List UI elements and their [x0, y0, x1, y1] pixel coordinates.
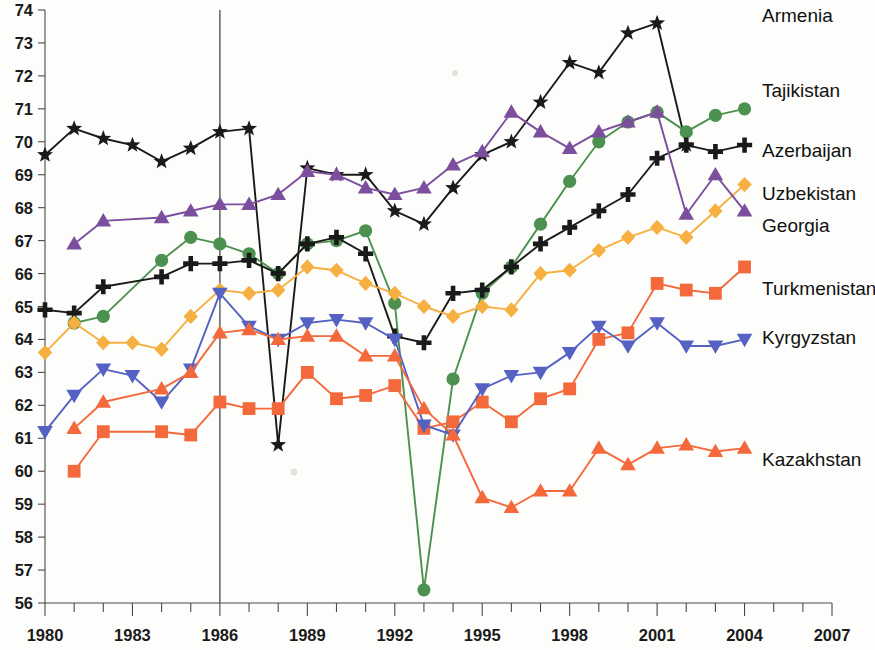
- data-point-marker: [446, 309, 460, 324]
- data-point-marker: [504, 104, 520, 117]
- y-axis-tick-label: 73: [15, 34, 33, 52]
- data-point-marker: [213, 237, 226, 250]
- data-point-marker: [96, 335, 110, 350]
- data-point-marker: [417, 583, 430, 596]
- data-point-marker: [329, 328, 345, 341]
- data-point-marker: [678, 437, 694, 450]
- data-point-marker: [155, 254, 168, 267]
- x-axis-tick-label: 2004: [726, 626, 764, 644]
- data-point-marker: [212, 256, 227, 271]
- series-label-azerbaijan: Azerbaijan: [762, 140, 852, 161]
- data-point-marker: [95, 130, 111, 145]
- data-point-marker: [183, 140, 199, 155]
- data-point-marker: [330, 392, 343, 405]
- data-point-marker: [97, 310, 110, 323]
- data-point-marker: [154, 396, 170, 409]
- data-point-marker: [708, 144, 723, 159]
- data-point-marker: [416, 335, 431, 350]
- data-point-marker: [388, 286, 402, 301]
- series-label-georgia: Georgia: [762, 215, 830, 236]
- x-axis-tick-label: 2007: [814, 626, 851, 644]
- data-point-marker: [387, 334, 403, 347]
- series-kazakhstan: [66, 322, 752, 513]
- y-axis-tick-label: 60: [15, 462, 33, 480]
- data-point-marker: [592, 333, 605, 346]
- data-point-marker: [620, 457, 636, 470]
- data-point-marker: [475, 299, 489, 314]
- x-axis-tick-label: 2001: [639, 626, 676, 644]
- data-point-marker: [504, 370, 520, 383]
- series-line: [74, 112, 744, 244]
- data-point-marker: [358, 348, 374, 361]
- data-point-marker: [679, 137, 694, 152]
- data-point-marker: [533, 483, 549, 496]
- x-axis-tick-label: 1980: [27, 626, 64, 644]
- data-point-marker: [301, 366, 314, 379]
- data-point-marker: [359, 224, 372, 237]
- data-point-marker: [358, 246, 373, 261]
- data-point-marker: [68, 465, 81, 478]
- x-axis-tick-label: 1983: [114, 626, 151, 644]
- data-point-marker: [678, 340, 694, 353]
- data-point-marker: [534, 218, 547, 231]
- data-point-marker: [709, 287, 722, 300]
- data-point-marker: [37, 302, 52, 317]
- data-point-marker: [37, 426, 53, 439]
- data-point-marker: [562, 141, 578, 154]
- series-azerbaijan: [37, 137, 752, 350]
- data-point-marker: [270, 187, 286, 200]
- data-point-marker: [678, 206, 694, 219]
- data-point-marker: [358, 166, 374, 181]
- data-point-marker: [505, 415, 518, 428]
- data-point-marker: [445, 286, 460, 301]
- axis-ticks-group: [38, 10, 832, 616]
- data-point-marker: [737, 440, 753, 453]
- data-point-marker: [155, 425, 168, 438]
- data-point-marker: [154, 269, 169, 284]
- data-point-marker: [154, 153, 170, 168]
- data-point-marker: [592, 243, 606, 258]
- data-point-marker: [562, 263, 576, 278]
- data-point-marker: [124, 137, 140, 152]
- x-axis-tick-label: 1995: [464, 626, 501, 644]
- data-point-marker: [446, 372, 459, 385]
- data-point-marker: [563, 382, 576, 395]
- data-point-marker: [359, 389, 372, 402]
- data-point-marker: [533, 124, 549, 137]
- y-axis-tick-label: 71: [15, 100, 33, 118]
- y-axis-tick-label: 65: [15, 298, 33, 316]
- data-point-marker: [445, 157, 461, 170]
- data-point-marker: [738, 102, 751, 115]
- data-point-marker: [183, 256, 198, 271]
- data-point-marker: [620, 340, 636, 353]
- data-point-marker: [358, 317, 374, 330]
- y-axis-tick-label: 59: [15, 495, 33, 513]
- data-point-marker: [562, 220, 577, 235]
- data-point-marker: [649, 15, 665, 30]
- series-label-tajikistan: Tajikistan: [762, 80, 840, 101]
- tick-labels-group: 5657585960616263646566676869707172737419…: [15, 1, 851, 644]
- data-point-marker: [562, 54, 578, 69]
- data-point-marker: [270, 436, 286, 451]
- y-axis-tick-label: 72: [15, 67, 33, 85]
- data-point-marker: [649, 317, 665, 330]
- data-point-marker: [650, 220, 664, 235]
- data-point-marker: [562, 483, 578, 496]
- y-axis-tick-label: 58: [15, 528, 33, 546]
- y-axis-tick-label: 56: [15, 594, 33, 612]
- y-axis-tick-label: 66: [15, 265, 33, 283]
- y-axis-tick-label: 57: [15, 561, 33, 579]
- series-labels-group: ArmeniaTajikistanAzerbaijanUzbekistanGeo…: [762, 5, 875, 471]
- data-point-marker: [563, 175, 576, 188]
- data-point-marker: [474, 490, 490, 503]
- data-point-marker: [622, 326, 635, 339]
- data-point-marker: [388, 379, 401, 392]
- data-point-marker: [620, 25, 636, 40]
- y-axis-tick-label: 68: [15, 199, 33, 217]
- y-axis-tick-label: 70: [15, 133, 33, 151]
- data-point-marker: [651, 277, 664, 290]
- data-point-marker: [708, 167, 724, 180]
- data-point-marker: [474, 144, 490, 157]
- y-axis-tick-label: 74: [15, 1, 34, 19]
- data-point-marker: [358, 276, 372, 291]
